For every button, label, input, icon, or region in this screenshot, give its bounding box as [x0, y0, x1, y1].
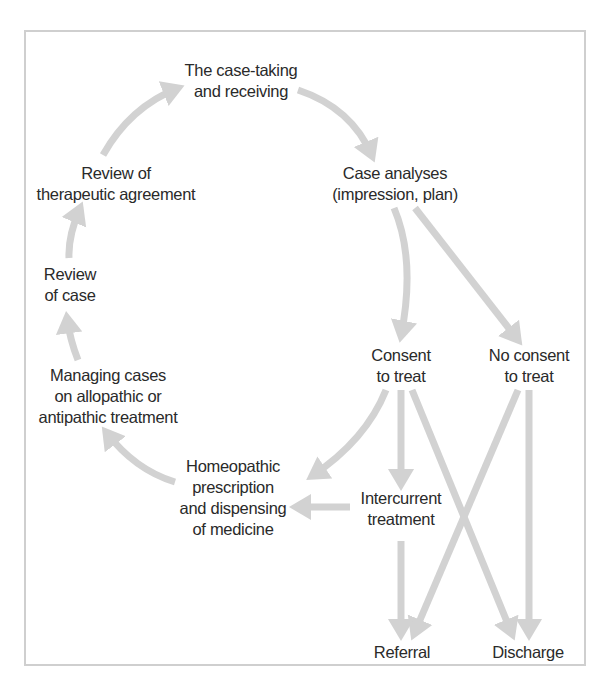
node-no-consent: No consent to treat	[489, 345, 569, 387]
arrow-homeopathic-to-managing	[106, 432, 175, 482]
arrow-casetaking-to-analyses	[298, 90, 372, 156]
arrow-analyses-to-consent	[394, 208, 407, 336]
arrow-agreement-to-casetaking	[103, 88, 178, 155]
arrow-analyses-to-noconsent	[415, 208, 518, 340]
node-case-analyses: Case analyses (impression, plan)	[332, 163, 458, 205]
arrow-reviewcase-to-agreement	[69, 208, 80, 258]
node-intercurrent: Intercurrent treatment	[361, 488, 442, 530]
arrow-consent-to-homeopathic	[312, 390, 386, 476]
node-review-agreement: Review of therapeutic agreement	[37, 163, 196, 205]
node-homeopathic: Homeopathic prescription and dispensing …	[180, 456, 287, 540]
arrows-layer	[0, 0, 598, 683]
node-review-case: Review of case	[44, 264, 96, 306]
node-consent: Consent to treat	[371, 345, 430, 387]
arrow-managing-to-reviewcase	[67, 318, 78, 360]
node-discharge: Discharge	[492, 642, 564, 663]
node-managing: Managing cases on allopathic or antipath…	[39, 365, 178, 428]
node-referral: Referral	[374, 642, 430, 663]
node-case-taking: The case-taking and receiving	[185, 60, 298, 102]
